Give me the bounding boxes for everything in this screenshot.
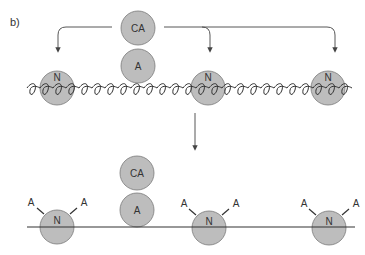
acetyl-tag: A xyxy=(28,197,35,208)
acetyl-tag: A xyxy=(233,198,240,209)
a-label: A xyxy=(135,61,142,72)
panel-label: b) xyxy=(10,16,20,28)
ca-label: CA xyxy=(131,23,145,34)
a-label: A xyxy=(134,205,141,216)
arrow-to-n2 xyxy=(164,27,210,50)
acetyl-tag: A xyxy=(81,197,88,208)
distribution-arrows xyxy=(58,27,335,50)
top-complex: CA A xyxy=(121,11,155,83)
nucleosome-label: N xyxy=(53,215,60,226)
arrow-to-n3 xyxy=(202,27,335,50)
nucleosome-label: N xyxy=(325,216,332,227)
acetyl-tag: A xyxy=(353,198,360,209)
chromatin-helix xyxy=(27,84,352,95)
bottom-complex: CA A xyxy=(120,156,154,227)
nucleosome-label: N xyxy=(324,72,331,83)
diagram: b) N N N CA A CA A xyxy=(0,0,365,255)
acetyl-tag: A xyxy=(181,198,188,209)
nucleosome-label: N xyxy=(53,72,60,83)
ca-label: CA xyxy=(130,168,144,179)
acetyl-tag: A xyxy=(301,198,308,209)
arrow-to-n1 xyxy=(58,27,112,50)
nucleosome-label: N xyxy=(204,72,211,83)
bottom-nucleosomes: N A A N A A N A A xyxy=(28,197,360,245)
nucleosome-label: N xyxy=(205,216,212,227)
